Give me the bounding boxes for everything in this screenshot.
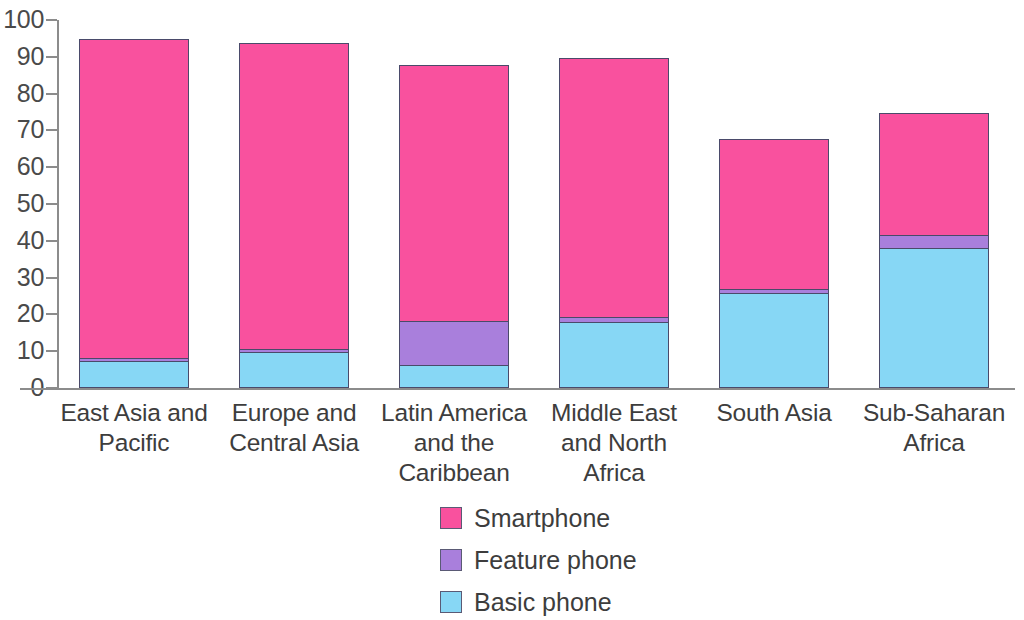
y-axis-tick-label: 40 — [0, 228, 44, 253]
x-axis-label: East Asia andPacific — [47, 398, 222, 458]
bar-group[interactable] — [239, 20, 349, 388]
y-axis-tick-labels: 1009080706050403020100 — [0, 0, 44, 400]
y-axis-tick-mark — [46, 350, 57, 352]
x-axis-label: South Asia — [687, 398, 862, 428]
x-axis-label: Europe andCentral Asia — [207, 398, 382, 458]
bar-segment-feature-phone[interactable] — [399, 321, 509, 366]
bar-segment-smartphone[interactable] — [79, 39, 189, 359]
legend-label: Smartphone — [474, 506, 610, 531]
legend-label: Basic phone — [474, 590, 612, 615]
y-axis-tick-label: 80 — [0, 81, 44, 106]
bar-segment-smartphone[interactable] — [879, 113, 989, 236]
x-axis-label-line: Africa — [847, 428, 1022, 458]
x-axis-label-line: South Asia — [687, 398, 862, 428]
bar-stack — [239, 44, 349, 388]
y-axis-tick-label: 50 — [0, 191, 44, 216]
y-axis-tick-label: 30 — [0, 265, 44, 290]
y-axis-tick-mark — [46, 166, 57, 168]
x-axis-label-line: East Asia and — [47, 398, 222, 428]
x-axis-label-line: Caribbean — [367, 458, 542, 488]
bar-group[interactable] — [719, 20, 829, 388]
y-axis-tick-mark — [46, 129, 57, 131]
bar-segment-smartphone[interactable] — [559, 58, 669, 318]
y-axis-tick-mark — [46, 93, 57, 95]
y-axis-tick-mark — [46, 240, 57, 242]
legend-swatch-icon — [440, 549, 462, 571]
x-axis-label: Middle Eastand NorthAfrica — [527, 398, 702, 488]
bar-group[interactable] — [879, 20, 989, 388]
bar-stack — [559, 59, 669, 388]
bar-segment-basic-phone[interactable] — [559, 322, 669, 388]
x-axis-label-line: Pacific — [47, 428, 222, 458]
bar-segment-basic-phone[interactable] — [879, 248, 989, 388]
bar-stack — [879, 114, 989, 388]
legend-swatch-icon — [440, 507, 462, 529]
legend-item[interactable]: Smartphone — [440, 503, 637, 533]
y-axis-tick-mark — [46, 203, 57, 205]
bar-group[interactable] — [399, 20, 509, 388]
bar-segment-basic-phone[interactable] — [719, 293, 829, 388]
bar-group[interactable] — [559, 20, 669, 388]
chart-legend: SmartphoneFeature phoneBasic phone — [440, 503, 637, 620]
bar-segment-smartphone[interactable] — [719, 139, 829, 290]
y-axis-tick-label: 90 — [0, 44, 44, 69]
y-axis-tick-mark — [46, 313, 57, 315]
legend-item[interactable]: Basic phone — [440, 587, 637, 617]
x-axis-label-line: Central Asia — [207, 428, 382, 458]
bar-stack — [79, 40, 189, 388]
y-axis-tick-label: 60 — [0, 154, 44, 179]
x-axis-label-line: Europe and — [207, 398, 382, 428]
x-axis-label: Latin Americaand theCaribbean — [367, 398, 542, 488]
bar-stack — [399, 66, 509, 388]
x-axis-label-line: and the — [367, 428, 542, 458]
legend-swatch-icon — [440, 591, 462, 613]
bar-segment-feature-phone[interactable] — [879, 235, 989, 249]
bar-segment-basic-phone[interactable] — [239, 352, 349, 388]
x-axis-label-line: and North — [527, 428, 702, 458]
y-axis-tick-mark — [46, 19, 57, 21]
x-axis-label: Sub-SaharanAfrica — [847, 398, 1022, 458]
legend-item[interactable]: Feature phone — [440, 545, 637, 575]
bar-segment-basic-phone[interactable] — [79, 361, 189, 388]
x-axis-label-line: Africa — [527, 458, 702, 488]
bar-stack — [719, 140, 829, 388]
y-axis-tick-mark — [46, 277, 57, 279]
legend-label: Feature phone — [474, 548, 637, 573]
bar-segment-smartphone[interactable] — [239, 43, 349, 349]
bar-segment-smartphone[interactable] — [399, 65, 509, 322]
x-axis-label-line: Latin America — [367, 398, 542, 428]
x-axis-label-line: Sub-Saharan — [847, 398, 1022, 428]
y-axis-tick-label: 70 — [0, 117, 44, 142]
bar-segment-basic-phone[interactable] — [399, 365, 509, 388]
y-axis-tick-mark — [46, 56, 57, 58]
y-axis-tick-label: 20 — [0, 301, 44, 326]
x-axis-line — [20, 388, 1015, 390]
y-axis-tick-label: 100 — [0, 7, 44, 32]
y-axis-tick-label: 10 — [0, 338, 44, 363]
plot-area — [59, 20, 1015, 388]
x-axis-label-line: Middle East — [527, 398, 702, 428]
bar-group[interactable] — [79, 20, 189, 388]
